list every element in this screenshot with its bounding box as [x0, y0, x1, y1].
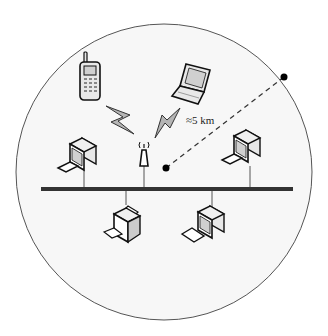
network-diagram: ≈5 km [0, 0, 328, 336]
radius-label: ≈5 km [186, 114, 215, 126]
coverage-circle [16, 24, 312, 320]
center-dot [163, 165, 170, 172]
network-bus [41, 187, 293, 191]
edge-dot [281, 74, 288, 81]
